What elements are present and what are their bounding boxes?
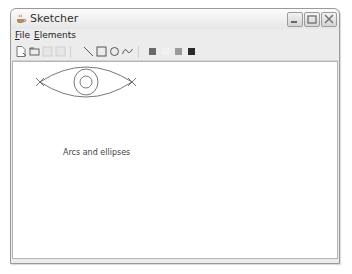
new-button[interactable] [15,45,28,58]
menu-file-rest: ile [20,30,31,40]
canvas-caption: Arcs and ellipses [63,148,130,157]
rectangle-icon [96,46,107,57]
color-button-3[interactable] [172,45,185,58]
title-bar[interactable]: Sketcher [11,9,339,29]
new-document-icon [16,46,27,57]
line-icon [83,46,94,57]
circle-button[interactable] [108,45,121,58]
window-title: Sketcher [30,12,78,25]
maximize-icon [305,13,319,26]
eye-drawing [31,64,141,100]
open-button[interactable] [28,45,41,58]
line-button[interactable] [82,45,95,58]
color-button-1[interactable] [146,45,159,58]
color-swatch-icon [173,46,184,57]
color-swatch-icon [186,46,197,57]
rectangle-button[interactable] [95,45,108,58]
close-icon [322,13,336,26]
color-swatch-icon [147,46,158,57]
color-swatch-icon [160,46,171,57]
sketcher-window: Sketcher File Elements [10,8,340,264]
save-as-icon [55,46,66,57]
menu-elements-rest: lements [40,30,76,40]
toolbar-separator [138,46,139,58]
maximize-button[interactable] [304,12,320,27]
curve-button[interactable] [121,45,134,58]
close-button[interactable] [321,12,337,27]
toolbar [12,44,338,61]
color-button-4[interactable] [185,45,198,58]
open-folder-icon [29,46,40,57]
window-controls [287,12,337,27]
toolbar-separator [70,46,71,58]
minimize-icon [288,13,302,26]
save-as-button[interactable] [54,45,67,58]
drawing-canvas[interactable]: Arcs and ellipses [12,61,338,259]
save-button[interactable] [41,45,54,58]
menu-elements[interactable]: Elements [34,30,76,40]
menu-file[interactable]: File [15,30,30,40]
menu-bar: File Elements [11,29,339,43]
circle-icon [109,46,120,57]
save-icon [42,46,53,57]
color-button-2[interactable] [159,45,172,58]
java-cup-icon [15,14,27,24]
minimize-button[interactable] [287,12,303,27]
curve-icon [122,46,133,57]
